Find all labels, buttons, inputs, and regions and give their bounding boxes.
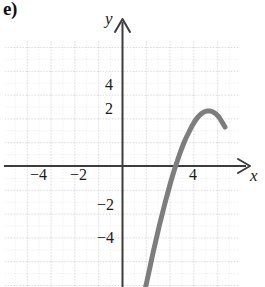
y-axis-label: y	[105, 9, 113, 29]
y-tick-label--4: −4	[97, 229, 114, 247]
x-tick-label--2: −2	[70, 166, 87, 184]
y-tick-label--2: −2	[97, 196, 114, 214]
figure-container: e) −4 −2 4 4 2 −2 −4 y x	[0, 0, 265, 287]
y-tick-label-4: 4	[105, 76, 113, 94]
coordinate-plot	[0, 0, 265, 287]
x-tick-label-4: 4	[189, 166, 197, 184]
y-tick-label-2: 2	[105, 100, 113, 118]
x-axis-label: x	[250, 166, 258, 186]
x-tick-label--4: −4	[30, 166, 47, 184]
